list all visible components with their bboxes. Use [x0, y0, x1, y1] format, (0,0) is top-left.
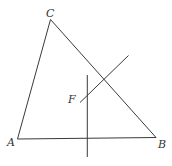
label-C: C [46, 7, 55, 20]
triangle-abc [18, 20, 157, 140]
label-B: B [157, 138, 166, 151]
label-A: A [6, 136, 15, 149]
geometry-diagram: C A B F [0, 0, 172, 166]
label-F: F [67, 93, 76, 106]
